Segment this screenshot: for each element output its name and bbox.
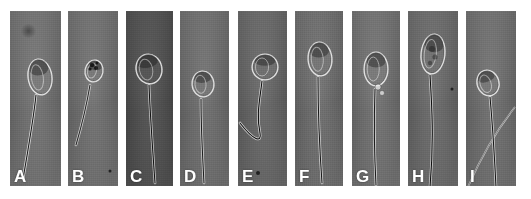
micrograph-panel-f: F <box>295 11 343 186</box>
film-grain <box>10 11 61 186</box>
film-grain <box>126 11 173 186</box>
micrograph-panel-d: D <box>180 11 229 186</box>
film-grain <box>466 11 516 186</box>
panel-label-a: A <box>14 168 26 185</box>
micrograph-panel-b: B <box>68 11 118 186</box>
figure-plate: ABCDEFGHI <box>0 0 531 199</box>
panel-label-d: D <box>184 168 196 185</box>
film-grain <box>238 11 287 186</box>
micrograph-panel-i: I <box>466 11 516 186</box>
micrograph-panel-g: G <box>352 11 400 186</box>
film-grain <box>68 11 118 186</box>
panel-label-b: B <box>72 168 84 185</box>
micrograph-panel-c: C <box>126 11 173 186</box>
micrograph-panel-a: A <box>10 11 61 186</box>
panel-label-i: I <box>470 168 475 185</box>
panel-label-h: H <box>412 168 424 185</box>
film-grain <box>295 11 343 186</box>
film-grain <box>352 11 400 186</box>
panel-label-f: F <box>299 168 309 185</box>
film-grain <box>180 11 229 186</box>
film-grain <box>408 11 458 186</box>
panel-label-e: E <box>242 168 253 185</box>
micrograph-panel-e: E <box>238 11 287 186</box>
micrograph-panel-h: H <box>408 11 458 186</box>
panel-label-g: G <box>356 168 369 185</box>
panel-label-c: C <box>130 168 142 185</box>
